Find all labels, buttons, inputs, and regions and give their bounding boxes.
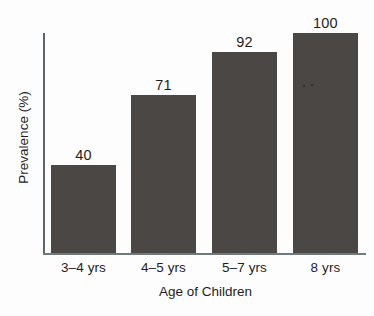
- bar-chart-figure: 40 71 92 100 3–4 yrs 4–5 yrs 5–7 yrs 8 y…: [0, 0, 374, 316]
- scan-speck: [303, 85, 305, 87]
- x-axis-line: [43, 253, 366, 255]
- scan-speck: [311, 84, 313, 86]
- x-tick-label: 8 yrs: [293, 260, 358, 275]
- bar: [51, 165, 116, 253]
- bar-value-label: 100: [293, 15, 358, 31]
- bar-slot: 92: [212, 33, 277, 253]
- y-axis-title: Prevalence (%): [16, 53, 31, 223]
- bar: [293, 33, 358, 253]
- x-tick-label: 3–4 yrs: [51, 260, 116, 275]
- bar: [131, 95, 196, 253]
- bar-value-label: 40: [51, 147, 116, 163]
- bar-value-label: 71: [131, 77, 196, 93]
- bar-slot: 100: [293, 33, 358, 253]
- bar-value-label: 92: [212, 34, 277, 50]
- x-tick-label: 4–5 yrs: [131, 260, 196, 275]
- x-axis-title: Age of Children: [45, 284, 366, 299]
- bar-slot: 71: [131, 33, 196, 253]
- bar: [212, 52, 277, 253]
- x-tick-label: 5–7 yrs: [212, 260, 277, 275]
- bar-slot: 40: [51, 33, 116, 253]
- plot-area: 40 71 92 100: [45, 33, 366, 253]
